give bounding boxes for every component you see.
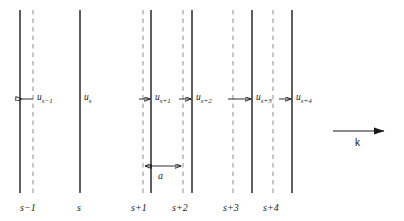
- displacement-subscript-s-plus-4: s+4: [301, 97, 312, 105]
- wavevector-label: k: [355, 138, 360, 148]
- displacement-subscript-s-plus-2: s+2: [201, 97, 212, 105]
- displacement-subscript-s-plus-3: s+3: [261, 97, 272, 105]
- displacement-label-s-plus-2: us+2: [196, 93, 212, 105]
- displacement-subscript-s-plus-1: s+1: [160, 97, 171, 105]
- displacement-label-s-plus-3: us+3: [256, 93, 272, 105]
- displacement-subscript-s-minus-1: s−1: [42, 97, 53, 105]
- displacement-subscript-s: s: [89, 97, 92, 105]
- lattice-displacement-figure: us−1 us us+1 us+2 us+3 us+4 a k s−1 s s+…: [0, 0, 404, 221]
- plane-index-label-s-plus-3: s+3: [223, 203, 239, 213]
- plane-index-label-s: s: [77, 203, 81, 213]
- displacement-label-s-plus-1: us+1: [155, 93, 171, 105]
- lattice-constant-label: a: [158, 171, 163, 181]
- plane-index-label-s-plus-1: s+1: [131, 203, 147, 213]
- diagram-canvas: [0, 0, 404, 221]
- displacement-label-s: us: [84, 93, 91, 105]
- plane-index-label-s-plus-2: s+2: [172, 203, 188, 213]
- displacement-label-s-plus-4: us+4: [296, 93, 312, 105]
- plane-index-label-s-plus-4: s+4: [263, 203, 279, 213]
- displacement-label-s-minus-1: us−1: [37, 93, 53, 105]
- plane-index-label-s-minus-1: s−1: [20, 203, 36, 213]
